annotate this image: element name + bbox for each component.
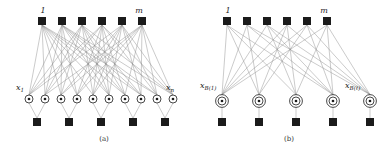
edge-factor-variable bbox=[141, 25, 142, 95]
panel-caption-a: (a) bbox=[99, 135, 109, 143]
figure-container: 1mx1xn(a)1mxB(1)xB(ℓ)(b) bbox=[0, 0, 388, 149]
factor-node-bottom bbox=[218, 118, 226, 126]
top-index-label-first: 1 bbox=[225, 6, 230, 15]
edge-factor-variable bbox=[222, 25, 267, 95]
edge-variable-factor bbox=[93, 103, 101, 118]
variable-label-right: xB(ℓ) bbox=[345, 81, 360, 91]
top-index-label-last: m bbox=[320, 6, 328, 15]
factor-node-top bbox=[78, 17, 86, 25]
panel-a: 1mx1xn(a) bbox=[16, 6, 177, 143]
factor-node-bottom bbox=[65, 118, 73, 126]
edge-variable-factor bbox=[37, 103, 45, 118]
factor-node-top bbox=[58, 17, 66, 25]
factor-node-top bbox=[323, 17, 331, 25]
factor-node-top bbox=[283, 17, 291, 25]
edge-factor-variable bbox=[122, 25, 141, 95]
edge-factor-variable bbox=[45, 25, 82, 95]
edge-factor-variable bbox=[42, 25, 61, 95]
variable-node-inner-dot bbox=[60, 98, 63, 101]
factor-node-bottom bbox=[255, 118, 263, 126]
factor-node-bottom bbox=[329, 118, 337, 126]
edge-factor-variable bbox=[82, 25, 125, 95]
edge-factor-variable bbox=[61, 25, 62, 95]
factor-node-bottom bbox=[97, 118, 105, 126]
factor-node-top bbox=[263, 17, 271, 25]
edges-a bbox=[29, 25, 173, 118]
variable-node-inner-dot bbox=[156, 98, 159, 101]
variable-label-left: x1 bbox=[16, 83, 24, 93]
variable-node-inner-dot bbox=[92, 98, 95, 101]
factor-node-bottom bbox=[161, 118, 169, 126]
variable-node-inner-dot bbox=[108, 98, 111, 101]
factor-node-bottom bbox=[366, 118, 374, 126]
factor-node-top bbox=[138, 17, 146, 25]
variable-node-inner-dot bbox=[44, 98, 47, 101]
variable-label-right: xn bbox=[166, 83, 175, 93]
edge-variable-factor bbox=[69, 103, 77, 118]
edge-variable-factor bbox=[125, 103, 133, 118]
edge-variable-factor bbox=[157, 103, 165, 118]
edge-factor-variable bbox=[42, 25, 45, 95]
edge-factor-variable bbox=[247, 25, 259, 95]
factor-node-bottom bbox=[129, 118, 137, 126]
panel-caption-b: (b) bbox=[284, 135, 294, 143]
edge-variable-factor bbox=[101, 103, 109, 118]
variable-node-inner-dot bbox=[140, 98, 143, 101]
variable-node-inner-dot bbox=[332, 100, 335, 103]
edge-variable-factor bbox=[165, 103, 173, 118]
variable-label-left: xB(1) bbox=[200, 81, 217, 91]
variable-node-inner-dot bbox=[369, 100, 372, 103]
edge-variable-factor bbox=[29, 103, 37, 118]
top-index-label-first: 1 bbox=[40, 6, 45, 15]
factor-node-bottom bbox=[292, 118, 300, 126]
factor-node-top bbox=[243, 17, 251, 25]
variable-node-inner-dot bbox=[124, 98, 127, 101]
edge-factor-variable bbox=[29, 25, 62, 95]
factor-node-top bbox=[303, 17, 311, 25]
edge-factor-variable bbox=[77, 25, 102, 95]
edge-factor-variable bbox=[29, 25, 82, 95]
variable-node-inner-dot bbox=[172, 98, 175, 101]
edge-variable-factor bbox=[133, 103, 141, 118]
edge-factor-variable bbox=[222, 25, 327, 95]
factor-node-top bbox=[38, 17, 46, 25]
edge-variable-factor bbox=[61, 103, 69, 118]
variable-node-inner-dot bbox=[76, 98, 79, 101]
factor-graph-figure: 1mx1xn(a)1mxB(1)xB(ℓ)(b) bbox=[0, 0, 388, 149]
edge-factor-variable bbox=[61, 25, 142, 95]
factor-node-top bbox=[118, 17, 126, 25]
top-index-label-last: m bbox=[135, 6, 143, 15]
factor-node-bottom bbox=[33, 118, 41, 126]
panel-b: 1mxB(1)xB(ℓ)(b) bbox=[200, 6, 376, 143]
variable-node-inner-dot bbox=[221, 100, 224, 103]
variable-node-inner-dot bbox=[28, 98, 31, 101]
edge-factor-variable bbox=[327, 25, 333, 95]
factor-node-top bbox=[98, 17, 106, 25]
edge-factor-variable bbox=[222, 25, 227, 95]
factor-node-top bbox=[223, 17, 231, 25]
variable-node-inner-dot bbox=[258, 100, 261, 103]
variable-node-inner-dot bbox=[295, 100, 298, 103]
edge-factor-variable bbox=[307, 25, 370, 95]
edge-factor-variable bbox=[222, 25, 307, 95]
edge-factor-variable bbox=[142, 25, 157, 95]
